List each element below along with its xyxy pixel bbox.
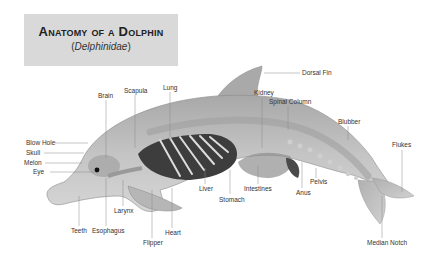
- label-melon: Melon: [24, 159, 42, 167]
- label-eye: Eye: [33, 168, 44, 176]
- label-median-notch: Median Notch: [367, 239, 407, 247]
- eye-shape: [95, 168, 100, 173]
- label-skull: Skull: [26, 149, 40, 157]
- label-spinal-column: Spinal Column: [269, 98, 311, 106]
- label-pelvis: Pelvis: [310, 178, 327, 186]
- label-liver: Liver: [199, 185, 213, 193]
- label-stomach: Stomach: [219, 196, 245, 204]
- label-anus: Anus: [296, 189, 311, 197]
- label-blow-hole: Blow Hole: [26, 139, 55, 147]
- label-scapula: Scapula: [124, 87, 148, 95]
- label-brain: Brain: [98, 92, 113, 100]
- label-kidney: Kidney: [254, 89, 274, 97]
- label-larynx: Larynx: [114, 207, 134, 215]
- dolphin-illustration: [0, 0, 442, 260]
- label-lung: Lung: [163, 84, 177, 92]
- label-blubber: Blubber: [338, 118, 360, 126]
- label-intestines: Intestines: [244, 185, 272, 193]
- label-flipper: Flipper: [143, 239, 163, 247]
- label-heart: Heart: [165, 229, 181, 237]
- label-dorsal-fin: Dorsal Fin: [302, 69, 332, 77]
- label-flukes: Flukes: [392, 141, 411, 149]
- label-esophagus: Esophagus: [92, 227, 125, 235]
- label-teeth: Teeth: [71, 227, 87, 235]
